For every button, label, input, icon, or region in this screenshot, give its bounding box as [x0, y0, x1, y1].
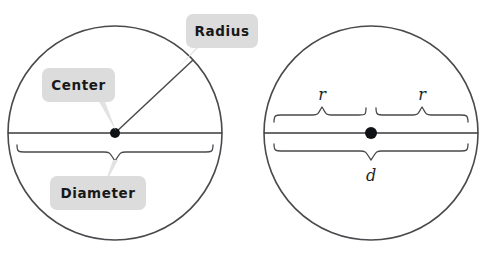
radius-callout-label: Radius — [194, 23, 249, 39]
figure-canvas: Radius Center Diameter — [0, 0, 480, 253]
right-radius-label-left: r — [318, 85, 327, 104]
diameter-callout-label: Diameter — [60, 185, 135, 201]
right-diagram-group: r r d — [264, 26, 478, 240]
right-radius-label-right: r — [418, 85, 427, 104]
circle-parts-diagram: Radius Center Diameter — [0, 0, 480, 253]
left-center-point — [110, 128, 120, 138]
right-diameter-label: d — [366, 166, 376, 185]
center-callout-label: Center — [51, 77, 106, 93]
left-diagram-group: Radius Center Diameter — [8, 14, 258, 240]
right-center-point — [365, 127, 377, 139]
